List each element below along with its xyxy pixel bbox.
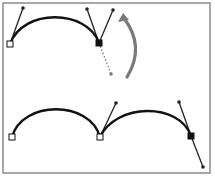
start-anchor <box>9 134 15 140</box>
rotated-handle-point <box>111 8 115 12</box>
background <box>0 0 215 177</box>
start-anchor <box>7 41 13 47</box>
end-in-handle-point <box>177 100 181 104</box>
corner-anchor-selected <box>96 40 102 46</box>
bezier-diagram <box>0 0 215 177</box>
corner-anchor <box>97 134 103 140</box>
original-handle-point <box>109 72 113 76</box>
end-out-handle-point <box>201 165 205 169</box>
incoming-handle-point <box>85 7 89 11</box>
start-handle-point <box>21 6 25 10</box>
end-anchor-selected <box>188 133 194 139</box>
corner-out-handle-point <box>114 101 118 105</box>
